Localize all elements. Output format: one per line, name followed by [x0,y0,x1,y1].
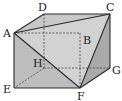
label-e: E [3,83,11,96]
label-g: G [112,64,121,77]
label-h: H [33,57,43,70]
label-a: A [2,27,12,40]
label-c: C [106,1,114,14]
label-b: B [83,34,91,47]
cube-diagram: A D C B H E F G [0,0,122,101]
label-d: D [38,1,47,14]
label-f: F [77,90,85,101]
